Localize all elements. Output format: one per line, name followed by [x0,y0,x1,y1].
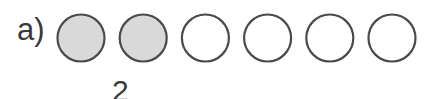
empty-circle [182,15,229,62]
circle-row [0,0,426,99]
empty-circle [244,15,291,62]
filled-count-label: 2 [112,74,129,99]
filled-circle [120,15,167,62]
empty-circle [306,15,353,62]
filled-circle [58,15,105,62]
empty-circle [369,15,416,62]
